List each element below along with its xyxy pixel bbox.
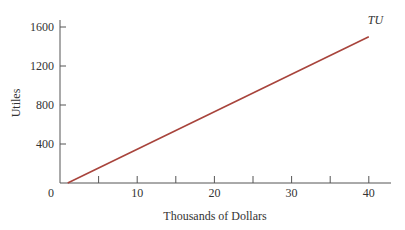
origin-label: 0 <box>48 186 54 200</box>
y-axis-title: Utiles <box>9 88 23 117</box>
series-line-tu <box>68 37 369 183</box>
y-axis: 40080012001600 <box>30 20 66 183</box>
y-tick-label: 1200 <box>30 59 54 73</box>
chart: 40080012001600 10203040 0 Utiles Thousan… <box>0 0 405 230</box>
y-tick-label: 1600 <box>30 20 54 34</box>
x-tick-label: 40 <box>363 186 375 200</box>
x-axis-title: Thousands of Dollars <box>163 209 267 223</box>
y-tick-label: 400 <box>36 137 54 151</box>
x-tick-label: 10 <box>131 186 143 200</box>
y-tick-label: 800 <box>36 98 54 112</box>
series-label: TU <box>368 13 385 27</box>
x-tick-label: 30 <box>286 186 298 200</box>
x-axis: 10203040 <box>60 176 391 200</box>
x-tick-label: 20 <box>208 186 220 200</box>
